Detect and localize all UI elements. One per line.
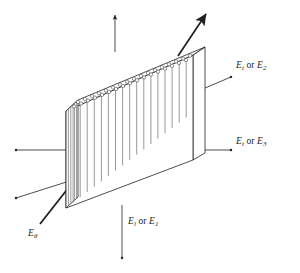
label-e3-sub-a: t [242,140,244,148]
label-e1-sub-a: l [134,220,136,228]
label-e1-sub-b: 1 [155,220,159,228]
label-transverse-e3: Et or E3 [236,136,267,146]
block-right-face [193,47,205,160]
label-e3-conjunction: or [246,136,254,146]
block-left-face [66,100,78,208]
label-angle-etheta: Eθ [28,228,37,238]
label-e3-sub-b: 3 [263,140,267,148]
label-e2-sub-a: t [242,64,244,72]
label-longitudinal-e1: El or E1 [128,216,159,226]
figure-root: Et or E2 Et or E3 El or E1 Eθ [0,0,300,273]
label-e2-sub-b: 2 [263,64,267,72]
label-transverse-e2: Et or E2 [236,60,267,70]
label-e2-conjunction: or [246,60,254,70]
label-e1-conjunction: or [138,216,146,226]
label-etheta-sub: θ [34,232,38,240]
